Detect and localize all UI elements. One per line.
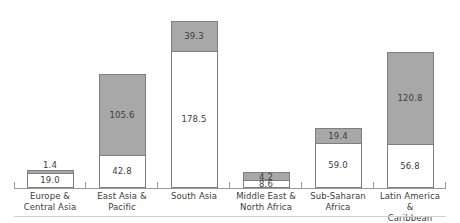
- bar-column-east-asia-pacific[interactable]: 105.6 42.8: [86, 6, 158, 188]
- category-label-middle-east-north-africa: Middle East & North Africa: [230, 191, 302, 223]
- bar-top-value-label: 19.4: [328, 132, 347, 141]
- bar-top-value-label: 105.6: [110, 111, 135, 120]
- bar-segment-top[interactable]: 105.6: [99, 74, 146, 155]
- category-label-line1: Latin America &: [376, 191, 444, 213]
- category-label-line1: East Asia &: [88, 191, 156, 202]
- category-label-line1: Middle East &: [232, 191, 300, 202]
- bar-segment-top[interactable]: 120.8: [387, 52, 434, 145]
- category-label-line2: Caribbean: [376, 213, 444, 223]
- bar-top-value-label: 1.4: [43, 161, 57, 170]
- bar-segment-base[interactable]: 178.5: [171, 51, 218, 188]
- stacked-bar[interactable]: 105.6 42.8: [99, 74, 146, 188]
- category-label-line2: Africa: [304, 202, 372, 213]
- bar-base-value-label: 42.8: [112, 167, 131, 176]
- bar-column-europe-central-asia[interactable]: 1.4 19.0: [14, 6, 86, 188]
- category-label-line1: Sub-Saharan: [304, 191, 372, 202]
- category-label-line1: South Asia: [160, 191, 228, 202]
- stacked-bar[interactable]: 39.3 178.5: [171, 21, 218, 188]
- bar-base-value-label: 56.8: [400, 162, 419, 171]
- category-label-line1: Europe &: [16, 191, 84, 202]
- category-label-south-asia: South Asia: [158, 191, 230, 223]
- category-label-sub-saharan-africa: Sub-Saharan Africa: [302, 191, 374, 223]
- plot-area: 1.4 19.0 105.6 42.8: [14, 6, 446, 188]
- footer-rule: [14, 216, 446, 217]
- category-label-latin-america-caribbean: Latin America & Caribbean: [374, 191, 446, 223]
- category-label-line2: North Africa: [232, 202, 300, 213]
- stacked-bar-chart: 1.4 19.0 105.6 42.8: [0, 0, 460, 223]
- x-axis-category-labels: Europe & Central Asia East Asia & Pacifi…: [14, 191, 446, 223]
- x-axis-line: [14, 188, 446, 189]
- category-label-line2: Central Asia: [16, 202, 84, 213]
- bar-segment-top[interactable]: 19.4: [315, 128, 362, 143]
- bar-base-value-label: 178.5: [182, 115, 207, 124]
- stacked-bar[interactable]: 19.4 59.0: [315, 128, 362, 188]
- bar-column-south-asia[interactable]: 39.3 178.5: [158, 6, 230, 188]
- category-label-europe-central-asia: Europe & Central Asia: [14, 191, 86, 223]
- bar-top-value-label: 120.8: [398, 94, 423, 103]
- bar-top-value-label: 39.3: [184, 32, 203, 41]
- bar-base-value-label: 59.0: [328, 161, 347, 170]
- bar-column-middle-east-north-africa[interactable]: 4.2 8.6: [230, 6, 302, 188]
- category-label-line2: Pacific: [88, 202, 156, 213]
- bar-segment-top[interactable]: 39.3: [171, 21, 218, 51]
- bar-column-sub-saharan-africa[interactable]: 19.4 59.0: [302, 6, 374, 188]
- bar-columns: 1.4 19.0 105.6 42.8: [14, 6, 446, 188]
- bar-column-latin-america-caribbean[interactable]: 120.8 56.8: [374, 6, 446, 188]
- stacked-bar[interactable]: 120.8 56.8: [387, 52, 434, 188]
- category-label-east-asia-pacific: East Asia & Pacific: [86, 191, 158, 223]
